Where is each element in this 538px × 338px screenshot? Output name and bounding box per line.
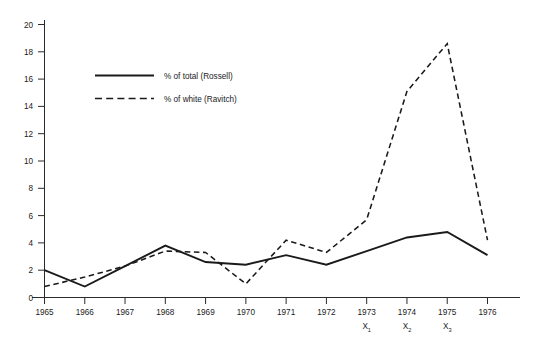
legend-entry-pct-of-total: % of total (Rossell) xyxy=(95,72,233,81)
y-tick-label-4: 4 xyxy=(28,239,33,248)
x-tick-label-1967: 1967 xyxy=(116,308,135,317)
x-tick-label-1973: 1973 xyxy=(358,308,377,317)
y-axis-ticks: 02468101214161820 xyxy=(24,21,45,303)
line-chart: 02468101214161820 1965196619671968196919… xyxy=(0,0,538,338)
y-tick-label-16: 16 xyxy=(24,75,34,84)
x-tick-label-1969: 1969 xyxy=(196,308,215,317)
y-tick-label-18: 18 xyxy=(24,48,34,57)
x-annotations: X1X2X3 xyxy=(362,322,451,333)
x-tick-label-1972: 1972 xyxy=(317,308,336,317)
x-tick-label-1968: 1968 xyxy=(156,308,175,317)
series-line-pct-of-total xyxy=(45,232,488,287)
data-series xyxy=(45,44,488,287)
legend-label-pct-of-total: % of total (Rossell) xyxy=(164,72,233,81)
chart-legend: % of total (Rossell) % of white (Ravitch… xyxy=(95,72,237,104)
x-tick-label-1970: 1970 xyxy=(237,308,256,317)
y-tick-label-2: 2 xyxy=(28,266,33,275)
x-axis-ticks: 1965196619671968196919701971197219731974… xyxy=(35,298,497,318)
x-tick-label-1976: 1976 xyxy=(478,308,497,317)
x-tick-label-1971: 1971 xyxy=(277,308,296,317)
y-tick-label-12: 12 xyxy=(24,130,34,139)
y-axis: 02468101214161820 xyxy=(24,20,45,303)
y-tick-label-20: 20 xyxy=(24,21,34,30)
y-tick-label-8: 8 xyxy=(28,184,33,193)
legend-label-pct-of-white: % of white (Ravitch) xyxy=(164,95,237,104)
annotation-X2: X2 xyxy=(403,322,412,333)
x-tick-label-1966: 1966 xyxy=(76,308,95,317)
y-tick-label-10: 10 xyxy=(24,157,34,166)
series-line-pct-of-white xyxy=(45,44,488,287)
y-tick-label-14: 14 xyxy=(24,102,34,111)
chart-canvas: 02468101214161820 1965196619671968196919… xyxy=(0,0,538,338)
annotation-X3: X3 xyxy=(443,322,452,333)
annotation-X1: X1 xyxy=(362,322,371,333)
y-tick-label-6: 6 xyxy=(28,212,33,221)
x-axis: 1965196619671968196919701971197219731974… xyxy=(32,298,520,318)
legend-entry-pct-of-white: % of white (Ravitch) xyxy=(95,95,237,104)
x-tick-label-1975: 1975 xyxy=(438,308,457,317)
x-tick-label-1965: 1965 xyxy=(35,308,54,317)
x-tick-label-1974: 1974 xyxy=(398,308,417,317)
